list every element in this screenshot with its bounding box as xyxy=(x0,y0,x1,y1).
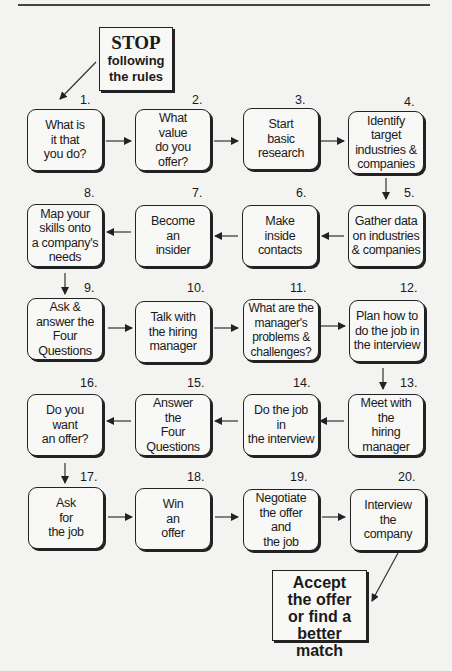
step-number: 1. xyxy=(80,93,90,107)
arrow-20-to-accept xyxy=(372,553,398,601)
step-18-box: Win an offer xyxy=(135,488,211,550)
step-20-box: Interview the company xyxy=(350,489,426,551)
step-number: 12. xyxy=(400,281,417,295)
step-10-box: Talk with the hiring manager xyxy=(135,301,211,363)
accept-callout: Accept the offer or find a better match xyxy=(272,570,367,641)
step-number: 20. xyxy=(398,470,415,484)
top-rule xyxy=(18,4,430,6)
step-5-box: Gather data on industries & companies xyxy=(348,205,424,267)
step-number: 15. xyxy=(187,376,204,390)
step-number: 13. xyxy=(400,376,417,390)
step-number: 9. xyxy=(84,281,94,295)
step-number: 10. xyxy=(187,281,204,295)
step-8-box: Map your skills onto a company's needs xyxy=(27,204,103,267)
step-13-box: Meet with the hiring manager xyxy=(348,394,424,456)
step-16-box: Do you want an offer? xyxy=(27,394,103,456)
step-4-box: Identify target industries & companies xyxy=(348,111,424,174)
step-2-box: What value do you offer? xyxy=(135,109,211,171)
step-number: 8. xyxy=(84,186,94,200)
step-number: 4. xyxy=(404,95,414,109)
step-15-box: Answer the Four Questions xyxy=(135,394,211,456)
step-number: 2. xyxy=(192,93,202,107)
step-number: 16. xyxy=(80,376,97,390)
arrow-stop-to-1 xyxy=(60,62,96,99)
step-19-box: Negotiate the offer and the job xyxy=(243,489,319,551)
step-number: 19. xyxy=(290,470,307,484)
step-3-box: Start basic research xyxy=(243,108,319,170)
step-1-box: What is it that you do? xyxy=(27,109,103,171)
step-number: 11. xyxy=(290,281,306,295)
step-14-box: Do the job in the interview xyxy=(243,394,319,456)
step-17-box: Ask for the job xyxy=(28,487,104,549)
stop-title: STOP xyxy=(100,33,172,53)
stop-subtitle: following the rules xyxy=(100,53,172,85)
step-6-box: Make inside contacts xyxy=(242,205,318,267)
step-7-box: Become an insider xyxy=(135,205,211,267)
step-number: 14. xyxy=(293,376,310,390)
step-number: 6. xyxy=(296,186,306,200)
step-number: 3. xyxy=(295,93,305,107)
step-number: 17. xyxy=(80,470,97,484)
accept-text: Accept the offer or find a better match xyxy=(273,574,366,659)
step-number: 18. xyxy=(187,470,204,484)
stop-callout: STOP following the rules xyxy=(99,27,173,91)
step-number: 7. xyxy=(192,186,202,200)
step-12-box: Plan how to do the job in the interview xyxy=(349,300,425,362)
step-9-box: Ask & answer the Four Questions xyxy=(27,298,103,360)
step-number: 5. xyxy=(404,186,414,200)
step-11-box: What are the manager's problems & challe… xyxy=(243,299,319,361)
